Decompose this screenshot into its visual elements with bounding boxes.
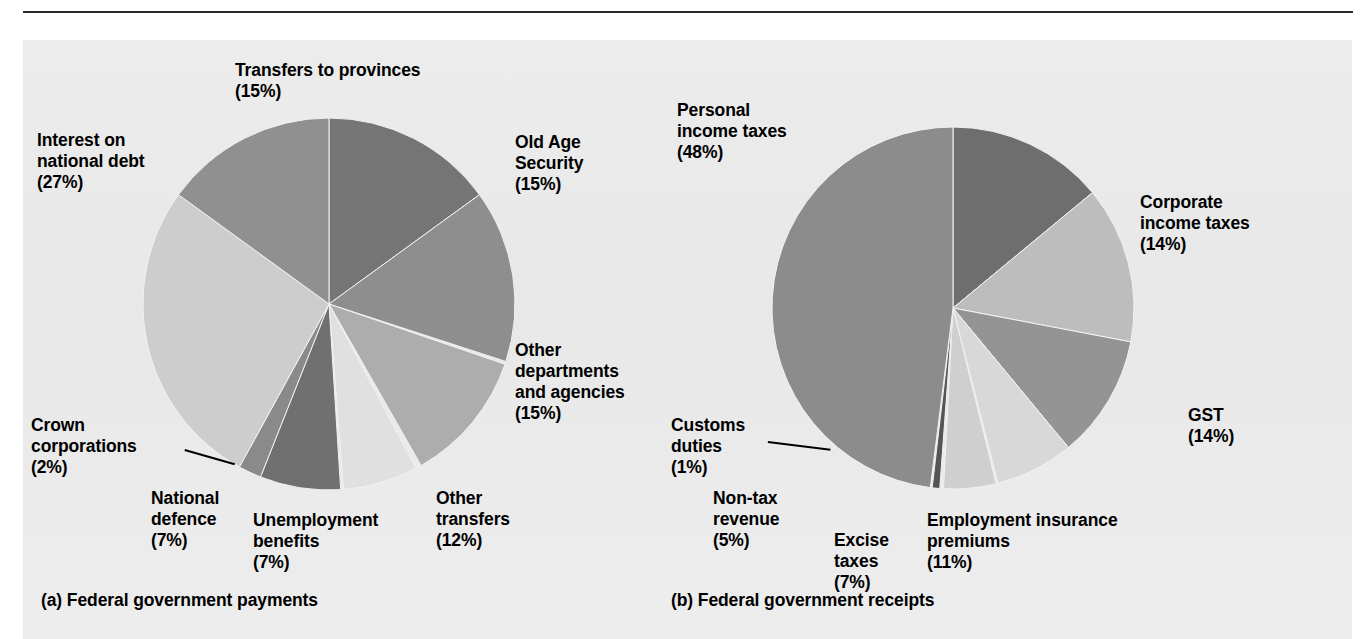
label-personal-income-taxes: Personal income taxes (48%) bbox=[677, 100, 887, 163]
label-non-tax-revenue: Non-tax revenue (5%) bbox=[713, 488, 843, 551]
label-corporate-income-taxes: Corporate income taxes (14%) bbox=[1140, 192, 1350, 255]
top-horizontal-rule bbox=[23, 11, 1353, 13]
figure-panel: Transfers to provinces (15%) Old Age Sec… bbox=[23, 40, 1352, 639]
caption-chart-b: (b) Federal government receipts bbox=[671, 590, 934, 611]
label-excise-taxes: Excise taxes (7%) bbox=[834, 530, 944, 593]
label-gst: GST (14%) bbox=[1188, 405, 1298, 447]
figure-root: Transfers to provinces (15%) Old Age Sec… bbox=[0, 0, 1372, 639]
label-employment-insurance-premiums: Employment insurance premiums (11%) bbox=[927, 510, 1187, 573]
label-customs-duties: Customs duties (1%) bbox=[671, 415, 801, 478]
